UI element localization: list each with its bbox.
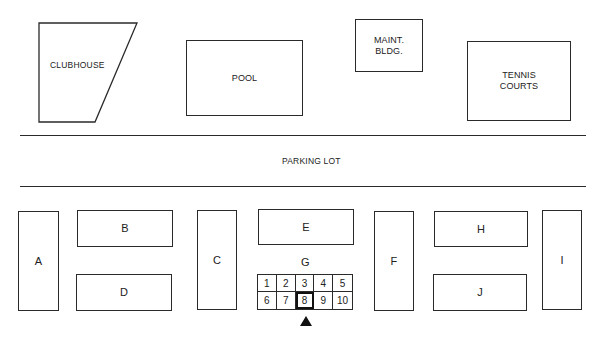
unit-1: 1 [258,275,277,292]
unit-2: 2 [277,275,296,292]
building-d: D [76,274,172,311]
pool-label: POOL [232,73,257,84]
building-b-label: B [121,223,128,234]
location-marker-icon [300,316,312,326]
building-i-label: I [560,255,563,266]
parking-lot-bottom-edge [20,186,586,187]
building-f-label: F [391,256,398,267]
maintenance-building-label: MAINT. BLDG. [374,35,404,57]
parking-lot-top-edge [20,135,586,136]
site-map: CLUBHOUSE POOL MAINT. BLDG. TENNIS COURT… [0,0,603,339]
parking-lot-label: PARKING LOT [282,156,341,166]
building-g-units: 1 2 3 4 5 6 7 8 9 10 [257,274,353,310]
building-b: B [77,210,173,247]
unit-5: 5 [333,275,352,292]
unit-3: 3 [296,275,315,292]
building-f: F [374,211,414,311]
building-j-label: J [477,287,483,298]
building-i: I [542,210,582,310]
pool: POOL [186,40,303,116]
building-c: C [197,210,237,310]
building-a-label: A [35,256,42,267]
unit-8-highlighted: 8 [296,292,315,309]
building-e: E [258,209,354,245]
building-h: H [434,211,528,247]
tennis-courts-label: TENNIS COURTS [500,70,538,92]
building-j: J [433,274,527,311]
building-d-label: D [120,287,128,298]
building-g-label: G [301,256,310,268]
clubhouse-label: CLUBHOUSE [50,60,105,70]
unit-7: 7 [277,292,296,309]
building-e-label: E [302,222,309,233]
building-h-label: H [477,224,485,235]
unit-6: 6 [258,292,277,309]
unit-4: 4 [314,275,333,292]
unit-9: 9 [314,292,333,309]
building-c-label: C [213,255,221,266]
maintenance-building: MAINT. BLDG. [355,19,423,72]
building-a: A [18,211,59,311]
unit-10: 10 [333,292,352,309]
tennis-courts: TENNIS COURTS [467,41,571,121]
